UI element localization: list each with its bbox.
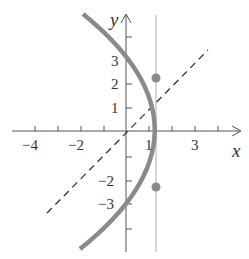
x-axis-label: x — [231, 140, 241, 161]
intersection-point-lower — [152, 183, 161, 192]
x-tick-label: 1 — [145, 137, 153, 153]
intersection-point-upper — [152, 74, 161, 83]
x-tick-label: 3 — [191, 137, 199, 153]
coordinate-plot: x y −4 −2 1 3 3 2 1 −2 −3 — [0, 0, 249, 259]
x-tick-label: −2 — [68, 137, 84, 153]
y-tick-label: −3 — [98, 196, 114, 212]
x-tick-label: −4 — [22, 137, 38, 153]
y-axis-label: y — [108, 9, 119, 30]
y-tick-label: 2 — [111, 76, 119, 92]
y-tick-label: 3 — [111, 53, 119, 69]
y-tick-label: 1 — [111, 100, 119, 116]
y-tick-label: −2 — [98, 173, 114, 189]
